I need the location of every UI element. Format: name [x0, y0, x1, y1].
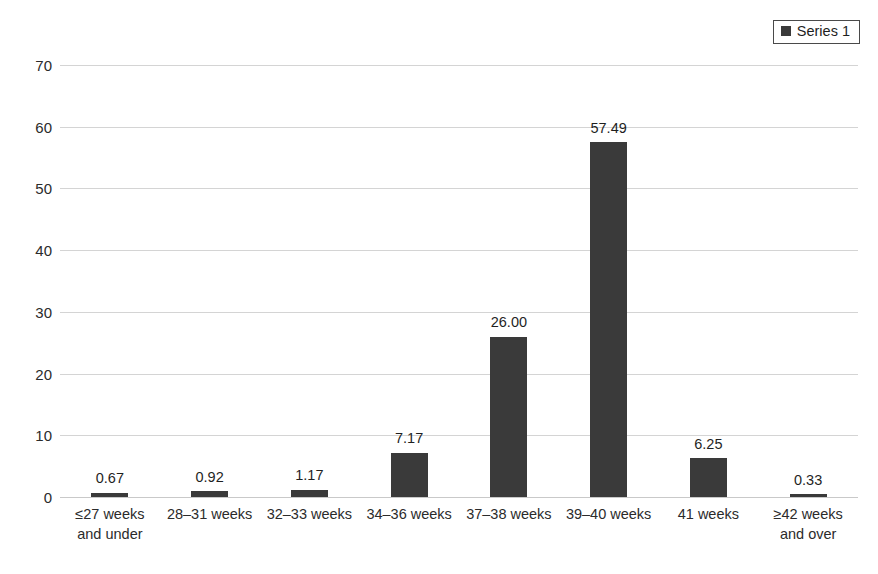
y-axis-tick-label: 50	[6, 181, 52, 196]
y-axis-tick-label: 60	[6, 119, 52, 134]
legend-item-label: Series 1	[797, 24, 850, 39]
bar[interactable]	[391, 453, 428, 497]
bars-layer: 0.670.921.177.1726.0057.496.250.33	[60, 65, 858, 497]
bar-value-label: 57.49	[559, 121, 659, 136]
bar-group: 0.92	[160, 65, 260, 497]
bar[interactable]	[91, 493, 128, 497]
bar-group: 7.17	[359, 65, 459, 497]
bar-group: 26.00	[459, 65, 559, 497]
x-axis-category-label: 39–40 weeks	[559, 505, 659, 544]
y-axis-tick-label: 70	[6, 58, 52, 73]
bar-chart: Series 1 010203040506070 0.670.921.177.1…	[0, 0, 878, 574]
y-axis-tick-label: 0	[6, 490, 52, 505]
bar-value-label: 6.25	[659, 437, 759, 452]
bar[interactable]	[790, 494, 827, 497]
bar[interactable]	[291, 490, 328, 497]
axis-baseline	[60, 497, 858, 498]
bar-value-label: 1.17	[260, 468, 360, 483]
x-axis-category-label: ≤27 weeks and under	[60, 505, 160, 544]
bar[interactable]	[191, 491, 228, 497]
chart-legend[interactable]: Series 1	[773, 20, 860, 44]
bar-value-label: 0.67	[60, 471, 160, 486]
bar-group: 6.25	[659, 65, 759, 497]
bar-group: 1.17	[260, 65, 360, 497]
bar-group: 57.49	[559, 65, 659, 497]
bar-value-label: 26.00	[459, 315, 559, 330]
y-axis-tick-label: 20	[6, 366, 52, 381]
bar-group: 0.33	[758, 65, 858, 497]
y-axis-tick-label: 30	[6, 304, 52, 319]
square-marker-icon	[781, 26, 791, 36]
x-axis-category-label: 37–38 weeks	[459, 505, 559, 544]
y-axis-tick-label: 40	[6, 243, 52, 258]
y-axis: 010203040506070	[0, 65, 52, 497]
x-axis-category-label: 28–31 weeks	[160, 505, 260, 544]
y-axis-tick-label: 10	[6, 428, 52, 443]
bar[interactable]	[590, 142, 627, 497]
x-axis-category-label: 34–36 weeks	[359, 505, 459, 544]
bar[interactable]	[490, 337, 527, 497]
bar-value-label: 0.33	[758, 473, 858, 488]
bar-value-label: 7.17	[359, 431, 459, 446]
x-axis-category-label: 32–33 weeks	[260, 505, 360, 544]
bar[interactable]	[690, 458, 727, 497]
bar-group: 0.67	[60, 65, 160, 497]
x-axis: ≤27 weeks and under28–31 weeks32–33 week…	[60, 505, 858, 544]
x-axis-category-label: 41 weeks	[659, 505, 759, 544]
x-axis-category-label: ≥42 weeks and over	[758, 505, 858, 544]
bar-value-label: 0.92	[160, 470, 260, 485]
